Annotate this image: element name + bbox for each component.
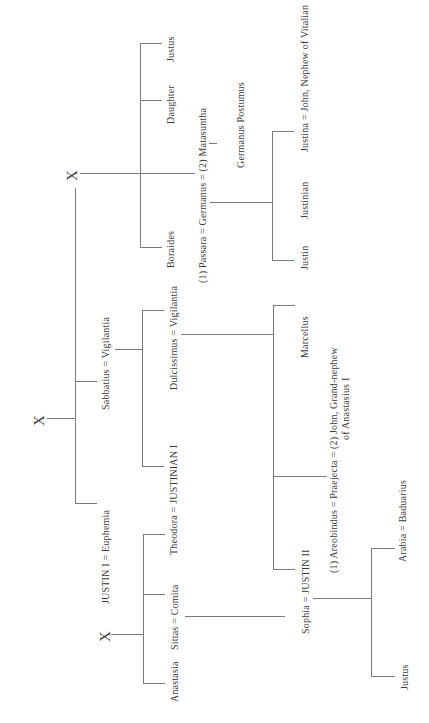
- connector: [142, 466, 164, 467]
- connector: [75, 188, 76, 504]
- person-marcellus: Marcellus: [299, 316, 311, 358]
- connector: [272, 131, 273, 261]
- connector: [273, 569, 295, 570]
- connector: [143, 534, 165, 535]
- person-boraides: Boraides: [165, 231, 177, 268]
- connector: [143, 594, 165, 595]
- marriage-germanus: (1) Passara = Germanus = (2) Matasuntha: [197, 108, 209, 283]
- unknown-ancestor-top: X: [65, 170, 80, 181]
- person-justus-top: Justus: [165, 36, 177, 62]
- person-justus-bottom: Justus: [399, 664, 411, 690]
- connector: [142, 310, 164, 311]
- person-justin: Justin: [299, 245, 311, 270]
- connector: [273, 476, 327, 477]
- person-justinian: Justinian: [299, 182, 311, 219]
- connector: [140, 43, 141, 248]
- connector: [140, 43, 162, 44]
- marriage-dulcissimus: Dulcissimus = Vigilantia: [168, 286, 180, 390]
- connector: [75, 503, 97, 504]
- connector: [273, 305, 274, 570]
- marriage-justina: Justina = John, Nephew of Vitalian: [299, 5, 311, 152]
- marriage-arabia: Arabia = Baduarius: [397, 480, 409, 562]
- connector: [143, 534, 144, 684]
- unknown-ancestor-middle: X: [32, 415, 47, 426]
- connector: [272, 260, 294, 261]
- connector: [371, 548, 372, 676]
- connector: [272, 131, 294, 132]
- connector: [75, 381, 97, 382]
- connector: [80, 173, 195, 174]
- connector: [143, 683, 165, 684]
- connector: [273, 305, 295, 306]
- connector: [371, 676, 395, 677]
- marriage-praejecta-line1: (1) Areobindus = Praejecta = (2) John, G…: [328, 347, 340, 573]
- connector: [210, 202, 272, 203]
- person-germanus-postumus: Germanus Postumus: [235, 82, 247, 168]
- marriage-justin-i: JUSTIN I = Euphemia: [100, 510, 112, 604]
- connector: [115, 349, 142, 350]
- connector: [185, 616, 285, 617]
- marriage-sittas: Sittas = Comita: [169, 585, 181, 650]
- unknown-ancestor-bottom: X: [98, 631, 113, 642]
- connector: [142, 310, 143, 467]
- connector: [371, 548, 395, 549]
- connector: [47, 418, 75, 419]
- connector: [140, 100, 162, 101]
- marriage-praejecta-line2: of Anastasius I: [340, 378, 352, 440]
- marriage-theodora: Theodora = JUSTINIAN I: [168, 445, 180, 555]
- connector: [181, 334, 273, 335]
- connector: [111, 634, 144, 635]
- marriage-sabbatius: Sabbatius = Vigilantia: [100, 317, 112, 410]
- connector: [313, 598, 371, 599]
- connector: [209, 143, 217, 144]
- person-daughter: Daughter: [165, 85, 177, 124]
- marriage-sophia: Sophia = JUSTIN II: [300, 549, 312, 634]
- connector: [140, 247, 162, 248]
- person-anastasia: Anastasia: [169, 661, 181, 702]
